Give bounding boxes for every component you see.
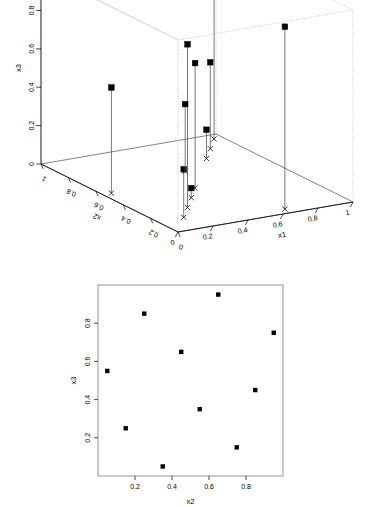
z-tick-label: 0.6: [28, 44, 35, 54]
data-point-2d: [142, 311, 146, 315]
x1-tick-label: 0.8: [307, 214, 318, 223]
data-point-2d: [253, 388, 257, 392]
z-tick-label: 0.8: [28, 5, 35, 15]
box-floor-edge: [41, 134, 216, 164]
box-ceiling-edge: [216, 0, 353, 10]
x-tick-label: 0.4: [167, 483, 177, 490]
x2-tick-label: 0.6: [93, 201, 105, 212]
data-point-2d: [179, 350, 183, 354]
3d-scatter-plot: 00.20.40.60.81x300.20.40.60.81x100.20.40…: [14, 0, 353, 251]
point-square-marker: [182, 101, 188, 107]
x1-tick-label: 1: [345, 209, 350, 217]
y-tick-label: 0.4: [84, 395, 91, 405]
y-tick-label: 0.2: [84, 433, 91, 443]
x-tick-label: 0.6: [204, 483, 214, 490]
x-tick-label: 0.2: [130, 483, 140, 490]
x1-tick-label: 0.4: [237, 226, 248, 235]
point-square-marker: [185, 42, 191, 48]
data-point-3d: [181, 167, 187, 220]
data-point-3d: [204, 127, 210, 161]
x1-axis-title: x1: [277, 230, 286, 240]
3d-data-points: [109, 0, 288, 220]
2d-plot-frame: [98, 285, 283, 476]
2d-axis-labels: 0.20.40.60.80.20.40.60.8x2x3: [69, 318, 251, 506]
y-tick-label: 0.8: [84, 318, 91, 328]
x1-axis-line: [178, 202, 353, 232]
data-point-2d: [216, 292, 220, 296]
point-square-marker: [204, 127, 210, 133]
3d-bounding-box: [41, 0, 353, 232]
x1-axis-tick: [175, 232, 178, 237]
y-axis-title: x3: [69, 377, 78, 385]
data-point-2d: [161, 464, 165, 468]
point-square-marker: [208, 60, 214, 66]
plot-border: [98, 285, 283, 476]
data-point-2d: [272, 331, 276, 335]
x1-tick-label: 0.6: [272, 220, 283, 229]
data-point-2d: [105, 369, 109, 373]
data-point-2d: [235, 445, 239, 449]
data-point-3d: [192, 60, 198, 190]
z-axis-title: x3: [14, 64, 23, 72]
figure-canvas: 00.20.40.60.81x300.20.40.60.81x100.20.40…: [0, 0, 373, 507]
2d-axes: [94, 323, 246, 480]
x-tick-label: 0.8: [241, 483, 251, 490]
data-point-2d: [198, 407, 202, 411]
y-tick-label: 0.6: [84, 356, 91, 366]
x2-tick-label: 0.8: [65, 187, 77, 198]
x1-tick-label: 0.2: [202, 232, 213, 241]
3d-axes: [36, 0, 353, 237]
x2-tick-label: 0: [177, 243, 184, 251]
point-square-marker: [109, 85, 115, 91]
data-point-2d: [124, 426, 128, 430]
point-square-marker: [192, 60, 198, 66]
x2-tick-label: 0.2: [147, 228, 159, 239]
z-tick-label: 0.4: [28, 82, 35, 92]
box-ceiling-edge: [178, 10, 353, 40]
x2-axis-tick: [178, 232, 180, 237]
data-point-3d: [189, 185, 195, 200]
z-tick-label: 0.2: [28, 121, 35, 131]
2d-data-points: [105, 292, 276, 468]
data-point-3d: [109, 85, 115, 196]
x2-tick-label: 0.4: [120, 215, 132, 226]
2d-scatter-plot: 0.20.40.60.80.20.40.60.8x2x3: [69, 285, 283, 506]
box-ceiling-edge: [41, 0, 178, 40]
data-point-3d: [282, 24, 288, 212]
x1-tick-label: 0: [170, 239, 175, 247]
point-square-marker: [282, 24, 288, 30]
x2-tick-label: 1: [40, 175, 47, 183]
x2-axis-title: x2: [91, 211, 102, 223]
z-tick-label: 0: [28, 162, 35, 166]
x2-axis-line: [41, 164, 178, 232]
3d-axis-labels: 00.20.40.60.81x300.20.40.60.81x100.20.40…: [14, 0, 350, 251]
x-axis-title: x2: [187, 497, 195, 506]
